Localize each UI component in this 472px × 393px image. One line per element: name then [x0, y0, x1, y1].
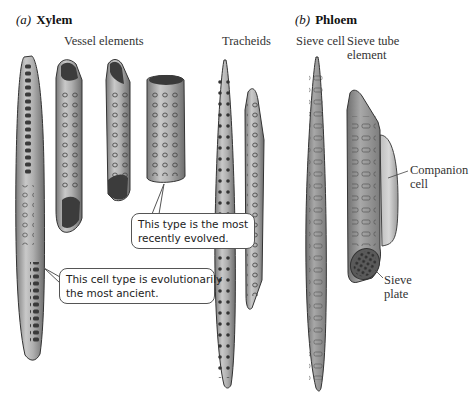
- panel-label-xylem: (a)Xylem: [16, 12, 72, 28]
- label-companion-line1: Companion: [410, 163, 468, 177]
- label-sieve-tube-line2: element: [347, 48, 399, 62]
- label-companion-line2: cell: [410, 177, 468, 191]
- cell-illustrations: [0, 0, 472, 393]
- vessel-element-short: [147, 75, 185, 182]
- label-sieve-plate: Sieve plate: [384, 273, 412, 301]
- label-tracheids: Tracheids: [222, 34, 271, 48]
- label-vessel-elements: Vessel elements: [64, 34, 144, 48]
- companion-cell: [380, 135, 398, 246]
- panel-label-phloem: (b)Phloem: [295, 12, 357, 28]
- label-sieve-plate-line2: plate: [384, 287, 412, 301]
- label-companion-cell: Companion cell: [410, 163, 468, 191]
- callout-most-recent: This type is the most recently evolved.: [131, 213, 255, 249]
- sieve-cell: [306, 57, 327, 391]
- vessel-element-2: [56, 60, 82, 233]
- callout-ancient-line2: the most ancient.: [66, 286, 208, 300]
- panel-letter-a: (a): [16, 12, 31, 27]
- vessel-element-long: [16, 56, 45, 360]
- tracheid-short: [245, 89, 264, 309]
- label-sieve-tube-line1: Sieve tube: [347, 34, 399, 48]
- panel-letter-b: (b): [295, 12, 310, 27]
- label-sieve-cell: Sieve cell: [296, 34, 345, 48]
- vessel-element-3: [106, 60, 130, 201]
- label-sieve-tube-element: Sieve tube element: [347, 34, 399, 62]
- callout-most-ancient: This cell type is evolutionarily the mos…: [59, 268, 215, 304]
- label-sieve-plate-line1: Sieve: [384, 273, 412, 287]
- callout-recent-line1: This type is the most: [138, 217, 248, 231]
- callout-recent-line2: recently evolved.: [138, 231, 248, 245]
- panel-name-phloem: Phloem: [315, 12, 357, 27]
- callout-ancient-line1: This cell type is evolutionarily: [66, 272, 208, 286]
- panel-name-xylem: Xylem: [36, 12, 72, 27]
- sieve-tube-element: [345, 90, 385, 285]
